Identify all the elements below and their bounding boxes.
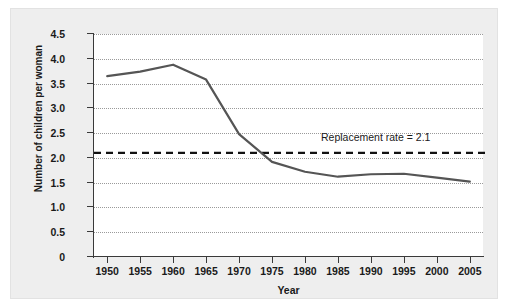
- y-tick-mark: [87, 58, 93, 59]
- y-tick-mark: [87, 33, 93, 34]
- x-tick-mark: [239, 257, 240, 263]
- y-tick-mark: [87, 157, 93, 158]
- y-tick-mark: [87, 206, 93, 207]
- y-axis-title: Number of children per woman: [33, 29, 44, 209]
- x-tick-mark: [470, 257, 471, 263]
- y-tick-mark: [87, 231, 93, 232]
- y-tick-mark: [87, 107, 93, 108]
- y-tick-mark: [87, 132, 93, 133]
- x-tick-mark: [305, 257, 306, 263]
- x-tick-mark: [437, 257, 438, 263]
- y-tick-mark: [87, 83, 93, 84]
- x-tick-label: 2005: [450, 266, 490, 277]
- x-axis-title: Year: [94, 284, 483, 296]
- y-tick-label: 0: [5, 252, 65, 263]
- chart-figure: 00.51.01.52.02.53.03.54.04.5 19501955196…: [0, 0, 508, 308]
- x-tick-mark: [371, 257, 372, 263]
- x-tick-mark: [206, 257, 207, 263]
- y-tick-label: 0.5: [5, 227, 65, 238]
- x-tick-mark: [338, 257, 339, 263]
- y-tick-mark: [87, 182, 93, 183]
- y-axis-line: [93, 33, 94, 258]
- x-tick-mark: [404, 257, 405, 263]
- x-tick-mark: [107, 257, 108, 263]
- replacement-rate-annotation: Replacement rate = 2.1: [321, 131, 430, 143]
- plot-area: [94, 34, 483, 257]
- x-tick-mark: [272, 257, 273, 263]
- series-line: [107, 65, 470, 182]
- y-tick-mark: [87, 256, 93, 257]
- data-series-layer: [94, 34, 483, 257]
- x-tick-mark: [140, 257, 141, 263]
- x-axis-line: [93, 256, 484, 257]
- x-tick-mark: [173, 257, 174, 263]
- chart-panel: 00.51.01.52.02.53.03.54.04.5 19501955196…: [10, 8, 498, 299]
